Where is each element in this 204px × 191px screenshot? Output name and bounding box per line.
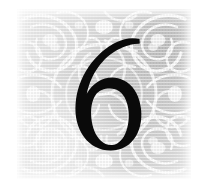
halftone-screen-highlight (17, 9, 191, 179)
ornament-panel (17, 9, 191, 179)
chapter-opener-page (0, 0, 204, 191)
